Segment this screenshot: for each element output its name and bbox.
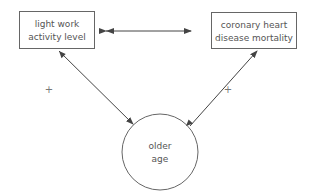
node-label-line1: older [149, 141, 172, 151]
node-label-line1: coronary heart [221, 20, 288, 30]
node-light-work-activity-level: light work activity level [20, 12, 95, 49]
edge-older-age-light-work-double-arrow [59, 51, 133, 124]
node-label-line2: activity level [28, 32, 85, 42]
node-coronary-heart-disease-mortality: coronary heart disease mortality [212, 13, 297, 49]
edge-sign-plus: + [45, 84, 53, 95]
arrowhead-down-icon [186, 120, 193, 127]
arrowhead-left-icon [106, 28, 114, 34]
node-label-line2: disease mortality [215, 33, 294, 43]
node-label-line1: light work [35, 19, 80, 29]
diagram-canvas: light work activity level coronary heart… [0, 0, 320, 192]
edge-sign-plus: + [224, 84, 232, 95]
node-label-line2: age [152, 154, 169, 164]
